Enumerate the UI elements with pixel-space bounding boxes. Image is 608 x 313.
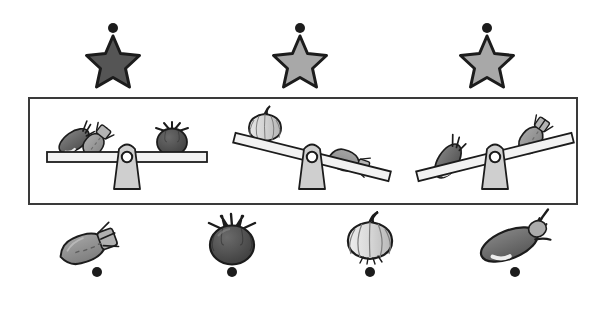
veg-carrot — [50, 213, 146, 271]
marker-top-2 — [295, 23, 305, 33]
star-3 — [458, 34, 516, 90]
veg-eggplant — [468, 213, 562, 271]
veg-tomato — [198, 213, 268, 271]
marker-bottom-4 — [510, 267, 520, 277]
marker-top-1 — [108, 23, 118, 33]
star-1 — [84, 34, 142, 90]
scale1-fulcrum — [114, 145, 140, 190]
balance-1 — [40, 101, 215, 205]
scale3-fulcrum — [482, 145, 508, 190]
marker-top-3 — [482, 23, 492, 33]
balance-panel — [28, 97, 578, 205]
marker-bottom-2 — [227, 267, 237, 277]
scale1-tomato-shape — [156, 122, 188, 156]
puzzle-canvas — [0, 0, 608, 313]
marker-bottom-1 — [92, 267, 102, 277]
balance-3 — [408, 101, 583, 205]
scale2-fulcrum — [299, 145, 325, 190]
marker-bottom-3 — [365, 267, 375, 277]
star-2 — [271, 34, 329, 90]
balance-2 — [225, 101, 400, 205]
veg-onion — [338, 213, 404, 271]
